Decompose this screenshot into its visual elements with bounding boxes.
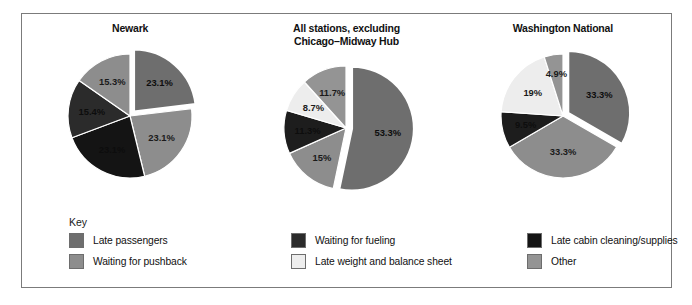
chart-title-all-stations: All stations, excluding Chicago–Midway H… (293, 22, 400, 47)
chart-title-washington-national: Washington National (513, 22, 613, 35)
legend-swatch-icon (69, 254, 84, 269)
pie-slice-label: 11.7% (320, 87, 347, 98)
pie-slice-label: 33.3% (586, 89, 613, 100)
legend: Key Late passengers Waiting for fueling … (22, 212, 671, 288)
pie-slice-label: 11.3% (295, 125, 322, 136)
pie-slice-label: 15.4% (79, 105, 106, 116)
chart-cell-all-stations: All stations, excluding Chicago–Midway H… (238, 14, 454, 219)
pie-slice-label: 53.3% (375, 127, 402, 138)
legend-item-label: Late weight and balance sheet (315, 256, 452, 268)
pie-slice-label: 15.3% (99, 76, 126, 87)
pie-slice-label: 19% (523, 86, 542, 97)
legend-item-label: Waiting for fueling (315, 235, 395, 247)
legend-item-late-passengers[interactable]: Late passengers (69, 233, 291, 248)
pie-slice-label: 23.1% (148, 132, 175, 143)
legend-item-other[interactable]: Other (527, 254, 678, 269)
legend-item-late-weight-and-balance-sheet[interactable]: Late weight and balance sheet (291, 254, 527, 269)
pie-slice-label: 9.5% (515, 119, 537, 130)
pie-chart-washington-national[interactable]: 33.3%33.3%9.5%19%4.9% (488, 39, 638, 189)
figure-frame: Newark 23.1%23.1%23.1%15.4%15.3% All sta… (21, 13, 672, 288)
legend-item-label: Other (551, 256, 576, 268)
pie-slice-label: 33.3% (550, 146, 577, 157)
legend-item-late-cabin-cleaning[interactable]: Late cabin cleaning/supplies (527, 233, 678, 248)
legend-item-label: Late passengers (93, 235, 168, 247)
pie-chart-newark[interactable]: 23.1%23.1%23.1%15.4%15.3% (55, 39, 205, 189)
legend-swatch-icon (69, 233, 84, 248)
legend-swatch-icon (291, 254, 306, 269)
chart-title-newark: Newark (112, 22, 148, 35)
legend-swatch-icon (527, 254, 542, 269)
legend-item-waiting-for-pushback[interactable]: Waiting for pushback (69, 254, 291, 269)
legend-swatch-icon (291, 233, 306, 248)
pie-slice-label: 15% (313, 152, 332, 163)
legend-item-waiting-for-fueling[interactable]: Waiting for fueling (291, 233, 527, 248)
legend-heading: Key (69, 216, 671, 228)
legend-item-label: Late cabin cleaning/supplies (551, 235, 678, 247)
legend-item-label: Waiting for pushback (93, 256, 187, 268)
pie-slice-label: 23.1% (146, 77, 173, 88)
charts-row: Newark 23.1%23.1%23.1%15.4%15.3% All sta… (22, 14, 671, 219)
chart-cell-newark: Newark 23.1%23.1%23.1%15.4%15.3% (22, 14, 238, 219)
legend-grid: Late passengers Waiting for fueling Late… (69, 230, 671, 272)
chart-cell-washington-national: Washington National 33.3%33.3%9.5%19%4.9… (455, 14, 671, 219)
pie-slice-label: 4.9% (545, 67, 567, 78)
legend-swatch-icon (527, 233, 542, 248)
pie-chart-all-stations[interactable]: 53.3%15%11.3%8.7%11.7% (271, 51, 421, 201)
pie-slice-label: 8.7% (303, 102, 325, 113)
pie-slice-label: 23.1% (99, 144, 126, 155)
